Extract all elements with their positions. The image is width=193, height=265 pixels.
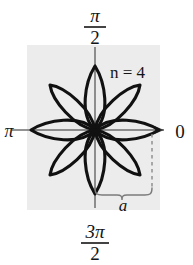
label-pi-over-2: π 2 bbox=[84, 5, 106, 48]
label-radius-a: a bbox=[119, 196, 128, 215]
label-3pi-over-2-denominator: 2 bbox=[90, 243, 100, 264]
label-pi-over-2-denominator: 2 bbox=[90, 27, 100, 48]
annotation-n-equals-4: n = 4 bbox=[110, 63, 146, 82]
polar-rose-figure: π 2 3π 2 π 0 n = 4 a bbox=[0, 0, 193, 265]
figure-canvas: π 2 3π 2 π 0 n = 4 a bbox=[0, 0, 193, 265]
label-zero-right: 0 bbox=[175, 121, 185, 142]
label-pi-over-2-numerator: π bbox=[90, 5, 100, 26]
label-pi-left: π bbox=[4, 121, 14, 141]
label-3pi-over-2-numerator: 3π bbox=[84, 221, 105, 242]
label-3pi-over-2: 3π 2 bbox=[81, 221, 109, 264]
